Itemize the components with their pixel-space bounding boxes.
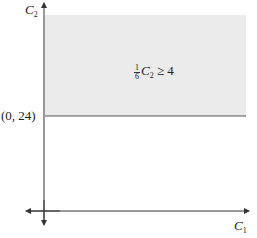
graph-canvas	[0, 0, 257, 238]
fraction: 16	[134, 64, 140, 81]
intercept-point-label: (0, 24)	[1, 108, 36, 124]
inequality-label: 16C2 ≥ 4	[134, 63, 174, 81]
x-axis-label: C1	[234, 218, 247, 235]
y-axis-label: C2	[25, 2, 38, 19]
